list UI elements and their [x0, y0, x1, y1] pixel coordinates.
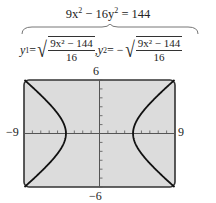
x-max-label: 9 — [178, 125, 184, 140]
hyperbola-graph — [0, 0, 216, 203]
x-min-label: −9 — [6, 125, 19, 140]
y-max-label: 6 — [93, 64, 99, 79]
y-min-label: −6 — [89, 189, 102, 203]
